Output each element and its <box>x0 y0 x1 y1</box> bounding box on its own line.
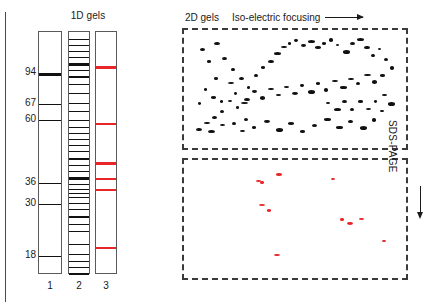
mw-marker-labels: 946760363018 <box>0 31 36 274</box>
gel-band <box>96 66 116 69</box>
gel-spot <box>374 100 377 103</box>
gel-spot <box>252 126 256 129</box>
gel-lane-3 <box>95 31 117 274</box>
panel-1d-title: 1D gels <box>58 10 118 21</box>
gel-spot <box>254 74 258 77</box>
gel-spot <box>244 118 248 121</box>
gel-spot <box>214 77 218 80</box>
gel-spot <box>356 82 360 85</box>
gel-band <box>39 183 61 184</box>
gel-band <box>69 45 89 46</box>
gel-spot <box>382 94 387 96</box>
gel-spot <box>204 88 207 91</box>
gel-spot <box>267 209 271 212</box>
gel-band <box>69 63 89 66</box>
gel-band <box>69 267 89 268</box>
gel-spot <box>324 88 328 92</box>
gel-spot <box>204 122 210 124</box>
gel-spot <box>372 118 376 122</box>
gel-band <box>69 177 89 180</box>
gel-band <box>69 70 89 71</box>
gel-2d-panel-bottom <box>182 158 408 280</box>
gel-band <box>69 111 89 112</box>
lane-number-2: 2 <box>67 280 91 291</box>
gel-band <box>69 84 89 85</box>
gel-spot <box>308 90 315 94</box>
gel-spot <box>259 204 265 206</box>
gel-spot <box>300 84 304 87</box>
gel-spot <box>357 38 364 41</box>
gel-spot <box>340 86 347 89</box>
gel-spot <box>274 52 281 55</box>
gel-spot <box>292 92 298 95</box>
gel-band <box>96 162 116 165</box>
mw-marker-36: 36 <box>6 177 36 187</box>
gel-spot <box>239 77 244 80</box>
gel-spot <box>358 100 363 103</box>
gel-band <box>96 123 116 125</box>
gel-spot <box>347 222 353 225</box>
gel-spot <box>276 173 282 176</box>
gel-spot <box>308 40 315 43</box>
gel-spot <box>366 108 371 110</box>
gel-spot <box>234 92 237 95</box>
gel-spot <box>315 46 321 49</box>
gel-spot <box>214 42 220 45</box>
gel-spot <box>268 60 274 63</box>
gel-band <box>69 103 89 104</box>
gel-spot <box>332 80 338 82</box>
gel-spot <box>211 96 216 99</box>
gel-spot <box>336 126 343 129</box>
gel-band <box>69 193 89 194</box>
gel-spot <box>384 58 388 61</box>
gel-spot <box>348 120 353 123</box>
gel-band <box>69 184 89 185</box>
iso-electric-focusing-label: Iso-electric focusing <box>232 12 320 23</box>
gel-band <box>69 39 89 40</box>
gel-band <box>69 139 89 140</box>
gel-spot <box>274 254 280 256</box>
lane-number-1: 1 <box>38 280 62 291</box>
gel-spot <box>222 57 227 60</box>
gel-spot <box>208 130 215 133</box>
gel-spot <box>220 110 224 113</box>
gel-spot <box>276 94 281 96</box>
gel-band <box>69 231 89 232</box>
gel-spot <box>343 50 350 54</box>
gel-band <box>69 127 89 128</box>
gel-spot <box>364 74 371 76</box>
gel-spot <box>288 42 291 45</box>
gel-band <box>69 216 89 218</box>
gel-spot <box>360 126 367 130</box>
gel-spot <box>260 96 265 100</box>
gel-spot <box>316 82 320 85</box>
gel-band <box>39 120 61 121</box>
gel-spot <box>261 66 265 69</box>
gel-spot <box>371 54 375 57</box>
gel-spot <box>334 108 341 111</box>
gel-spot <box>301 44 306 47</box>
gel-spot <box>244 98 250 101</box>
gel-band <box>69 203 89 204</box>
gel-spot <box>252 90 257 93</box>
gel-spot <box>359 218 364 220</box>
gel-band <box>69 197 89 198</box>
gel-spot <box>264 120 270 123</box>
gel-spot <box>220 124 225 126</box>
gel-band <box>69 254 89 255</box>
gel-spot <box>350 108 354 111</box>
gel-spot <box>276 128 283 132</box>
gel-spot <box>331 178 335 180</box>
gel-spot <box>268 88 274 90</box>
iso-electric-focusing-arrow-icon <box>325 17 363 18</box>
gel-band <box>69 120 89 121</box>
figure-gel-electrophoresis: 1D gels 946760363018 1 2 3 2D gels Iso-e… <box>0 0 444 307</box>
gel-spot <box>329 38 333 42</box>
gel-spot <box>382 240 386 242</box>
sds-page-arrow-icon <box>420 186 421 212</box>
gel-spot <box>300 130 305 133</box>
gel-band <box>69 209 89 210</box>
gel-spot <box>380 74 385 77</box>
gel-band <box>69 171 89 172</box>
gel-band <box>69 158 89 160</box>
